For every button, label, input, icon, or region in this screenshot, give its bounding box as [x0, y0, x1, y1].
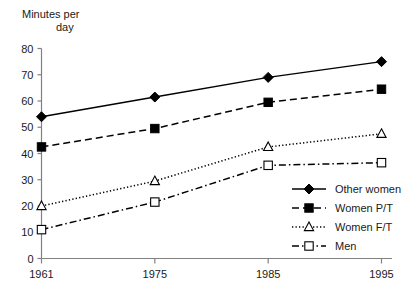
series-line	[42, 163, 382, 230]
data-point-marker	[37, 143, 45, 151]
series-line	[42, 89, 382, 147]
legend-marker-sample	[304, 184, 314, 194]
data-series-group	[37, 57, 387, 234]
data-point-marker	[37, 112, 47, 122]
legend-item-label: Women F/T	[335, 221, 393, 233]
y-axis-tick-label: 60	[21, 95, 33, 107]
x-axis-tick-label: 1985	[256, 268, 280, 280]
data-point-marker	[151, 124, 159, 132]
legend-item[interactable]: Women P/T	[292, 202, 393, 214]
y-axis-tick-label: 30	[21, 174, 33, 186]
legend-item[interactable]: Women F/T	[292, 221, 393, 233]
y-axis-tick-label: 70	[21, 69, 33, 81]
y-axis-tick-label: 40	[21, 148, 33, 160]
data-point-marker	[37, 201, 46, 210]
data-point-marker	[264, 98, 272, 106]
legend-item-label: Women P/T	[335, 202, 393, 214]
data-series	[37, 85, 385, 151]
y-axis-tick-label: 20	[21, 200, 33, 212]
legend-marker-sample	[304, 222, 313, 231]
y-axis-tick-label: 10	[21, 226, 33, 238]
data-point-marker	[264, 161, 272, 169]
legend-item-label: Men	[335, 240, 356, 252]
chart-legend: Other womenWomen P/TWomen F/TMen	[292, 183, 401, 252]
legend-item-label: Other women	[335, 183, 401, 195]
data-point-marker	[377, 158, 385, 166]
legend-marker-sample	[305, 204, 313, 212]
data-point-marker	[263, 72, 273, 82]
line-chart: Minutes per day 01020304050607080 196119…	[0, 0, 406, 289]
data-series	[37, 129, 386, 210]
series-line	[42, 62, 382, 117]
x-axis-tick-label: 1961	[29, 268, 53, 280]
data-series	[37, 57, 387, 122]
data-point-marker	[37, 225, 45, 233]
data-point-marker	[150, 92, 160, 102]
data-point-marker	[377, 129, 386, 138]
chart-canvas: 01020304050607080 1961197519851995 Other…	[0, 0, 406, 289]
data-point-marker	[264, 142, 273, 151]
data-point-marker	[151, 198, 159, 206]
y-axis-tick-label: 80	[21, 43, 33, 55]
legend-item[interactable]: Men	[292, 240, 356, 252]
y-axis-tick-label: 50	[21, 121, 33, 133]
data-point-marker	[377, 57, 387, 67]
x-axis-tick-label: 1995	[369, 268, 393, 280]
x-axis-tick-label: 1975	[143, 268, 167, 280]
legend-marker-sample	[305, 242, 313, 250]
series-line	[42, 134, 382, 206]
legend-item[interactable]: Other women	[292, 183, 401, 195]
x-axis-tick-group: 1961197519851995	[29, 259, 393, 280]
data-point-marker	[377, 85, 385, 93]
y-axis-tick-label: 0	[27, 253, 33, 265]
